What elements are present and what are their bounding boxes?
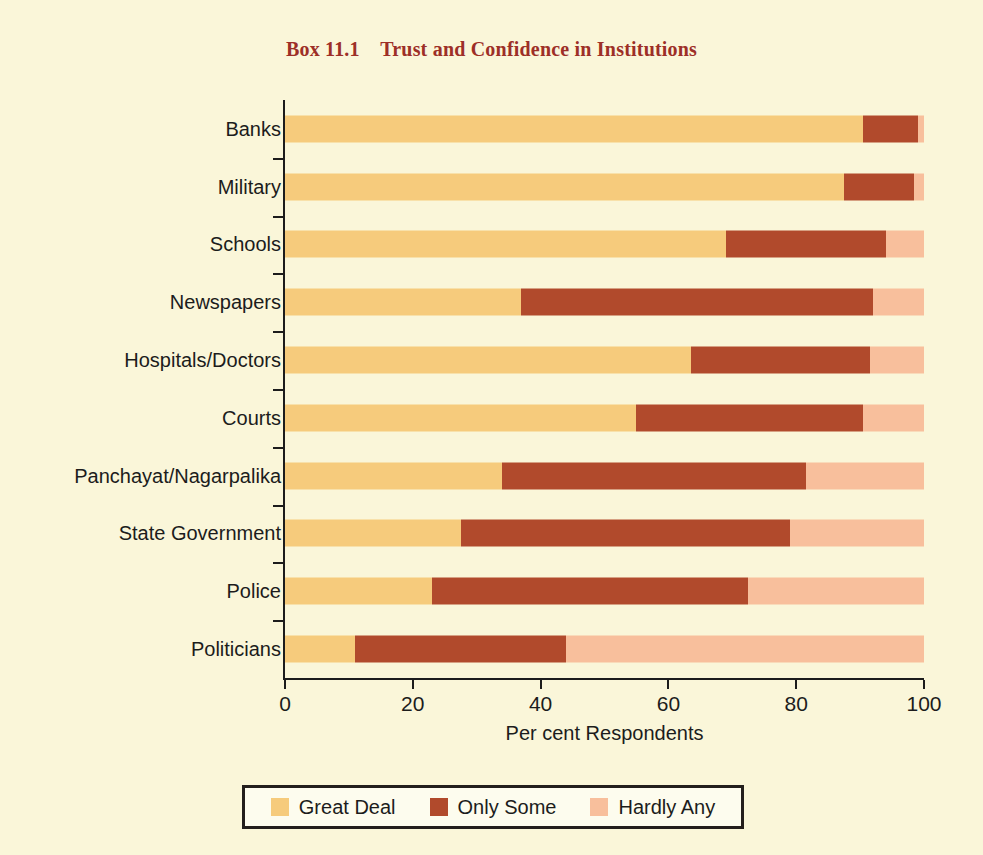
stacked-bar: [285, 636, 924, 663]
bar-segment: [285, 578, 432, 605]
bar-segment: [285, 462, 502, 489]
bar-segment: [502, 462, 806, 489]
bar-segment: [748, 578, 924, 605]
bar-segment: [285, 231, 726, 258]
bar-segment: [863, 115, 917, 142]
bar-segment: [806, 462, 924, 489]
legend-item: Great Deal: [271, 796, 396, 819]
x-tick-label: 20: [401, 692, 424, 716]
bar-segment: [285, 115, 863, 142]
legend-swatch: [430, 798, 448, 816]
x-tick: [412, 680, 414, 689]
x-axis-label: Per cent Respondents: [285, 722, 924, 745]
stacked-bar: [285, 173, 924, 200]
stacked-bar: [285, 578, 924, 605]
category-label: Newspapers: [170, 291, 281, 314]
legend-label: Great Deal: [299, 796, 396, 819]
bar-segment: [726, 231, 886, 258]
bar-segment: [914, 173, 924, 200]
bar-row: Politicians: [285, 620, 924, 678]
x-tick-label: 0: [279, 692, 291, 716]
bar-segment: [285, 347, 691, 374]
stacked-bar: [285, 520, 924, 547]
chart-legend: Great DealOnly SomeHardly Any: [242, 785, 744, 829]
stacked-bar: [285, 347, 924, 374]
stacked-bar: [285, 289, 924, 316]
legend-item: Only Some: [430, 796, 557, 819]
bar-segment: [566, 636, 924, 663]
legend-label: Hardly Any: [618, 796, 715, 819]
category-label: Panchayat/Nagarpalika: [74, 464, 281, 487]
y-tick: [273, 620, 284, 622]
bar-row: Hospitals/Doctors: [285, 331, 924, 389]
bar-segment: [285, 173, 844, 200]
y-tick: [273, 273, 284, 275]
bar-segment: [285, 289, 521, 316]
x-tick: [284, 680, 286, 689]
y-tick: [273, 389, 284, 391]
x-tick-label: 80: [785, 692, 808, 716]
stacked-bar: [285, 115, 924, 142]
bar-row: Banks: [285, 100, 924, 158]
y-tick: [273, 505, 284, 507]
legend-item: Hardly Any: [590, 796, 715, 819]
category-label: Politicians: [191, 638, 281, 661]
stacked-bar: [285, 231, 924, 258]
legend-swatch: [590, 798, 608, 816]
bar-segment: [285, 636, 355, 663]
y-tick: [273, 562, 284, 564]
stacked-bar: [285, 462, 924, 489]
legend-label: Only Some: [458, 796, 557, 819]
bar-row: Military: [285, 158, 924, 216]
x-tick: [923, 680, 925, 689]
category-label: Hospitals/Doctors: [124, 349, 281, 372]
x-tick: [540, 680, 542, 689]
bar-segment: [844, 173, 914, 200]
bar-row: Schools: [285, 216, 924, 274]
category-label: Banks: [225, 117, 281, 140]
category-label: Police: [227, 580, 281, 603]
bar-segment: [863, 404, 924, 431]
category-label: Military: [218, 175, 281, 198]
x-tick-label: 40: [529, 692, 552, 716]
bar-segment: [521, 289, 872, 316]
bar-segment: [918, 115, 924, 142]
bar-segment: [691, 347, 870, 374]
y-tick: [273, 216, 284, 218]
category-label: Courts: [222, 406, 281, 429]
chart-figure: Box 11.1 Trust and Confidence in Institu…: [0, 0, 983, 855]
legend-swatch: [271, 798, 289, 816]
y-tick: [273, 158, 284, 160]
stacked-bar: [285, 404, 924, 431]
bar-segment: [790, 520, 924, 547]
chart-title: Box 11.1 Trust and Confidence in Institu…: [0, 38, 983, 61]
x-tick-label: 60: [657, 692, 680, 716]
bar-row: Newspapers: [285, 273, 924, 331]
bar-row: State Government: [285, 505, 924, 563]
bar-segment: [432, 578, 748, 605]
plot-area: 020406080100 BanksMilitarySchoolsNewspap…: [285, 100, 924, 678]
bar-segment: [870, 347, 924, 374]
bar-segment: [355, 636, 566, 663]
bar-segment: [636, 404, 863, 431]
bar-segment: [285, 404, 636, 431]
bar-row: Courts: [285, 389, 924, 447]
bar-segment: [886, 231, 924, 258]
bar-row: Panchayat/Nagarpalika: [285, 447, 924, 505]
bar-segment: [285, 520, 461, 547]
x-axis-line: [283, 678, 924, 680]
bar-segment: [461, 520, 790, 547]
y-tick: [273, 447, 284, 449]
x-tick-label: 100: [906, 692, 941, 716]
bar-segment: [873, 289, 924, 316]
category-label: State Government: [119, 522, 281, 545]
category-label: Schools: [210, 233, 281, 256]
x-tick: [795, 680, 797, 689]
x-tick: [667, 680, 669, 689]
y-tick: [273, 331, 284, 333]
bar-row: Police: [285, 562, 924, 620]
